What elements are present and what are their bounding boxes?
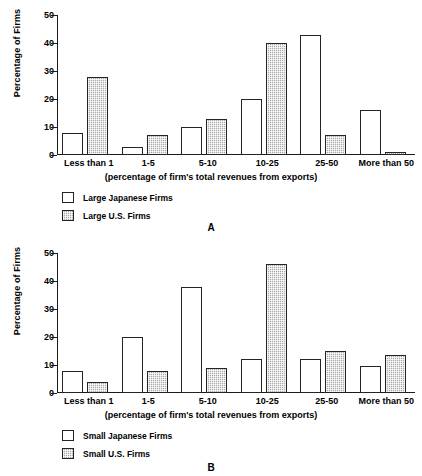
x-category-label-5: 25-50 [315, 158, 338, 168]
legend-label-japanese-b: Small Japanese Firms [83, 431, 172, 441]
x-category-label-4: 10-25 [256, 158, 279, 168]
legend-label-japanese-a: Large Japanese Firms [83, 193, 173, 203]
x-category-label-5: 25-50 [315, 396, 338, 406]
bar-japanese-4 [241, 359, 262, 393]
bar-group-4 [237, 15, 297, 155]
legend-item-us-a: Large U.S. Firms [62, 208, 173, 223]
legend-label-us-b: Small U.S. Firms [83, 449, 150, 459]
bar-japanese-4 [241, 99, 262, 155]
y-tick-mark-40 [51, 43, 57, 44]
legend-b: Small Japanese Firms Small U.S. Firms [62, 428, 172, 464]
y-tick-mark-30 [51, 309, 57, 310]
bar-japanese-1 [62, 133, 83, 155]
bar-group-3 [177, 253, 237, 393]
y-tick-mark-30 [51, 71, 57, 72]
legend-item-japanese-b: Small Japanese Firms [62, 428, 172, 443]
x-axis-label-a: (percentage of firm's total revenues fro… [0, 172, 422, 182]
legend-item-us-b: Small U.S. Firms [62, 446, 172, 461]
y-axis-tick-labels-a: 01020304050 [28, 12, 54, 155]
bar-group-6 [356, 253, 416, 393]
bar-group-1 [58, 253, 118, 393]
plot-area-b: Percentage of Firms 01020304050 [0, 238, 422, 398]
x-category-label-1: Less than 1 [64, 396, 114, 406]
y-tick-mark-50 [51, 15, 57, 16]
x-category-label-1: Less than 1 [64, 158, 114, 168]
bar-us-3 [206, 368, 227, 393]
bar-us-3 [206, 119, 227, 155]
bar-us-6 [385, 355, 406, 393]
plot-area-a: Percentage of Firms 01020304050 [0, 0, 422, 160]
x-category-label-4: 10-25 [256, 396, 279, 406]
y-tick-mark-40 [51, 281, 57, 282]
bar-japanese-2 [122, 337, 143, 393]
y-tick-mark-20 [51, 337, 57, 338]
legend-label-us-a: Large U.S. Firms [83, 211, 151, 221]
bar-us-4 [266, 43, 287, 155]
chart-panel-a: Percentage of Firms 01020304050 Less tha… [0, 0, 422, 238]
x-category-label-6: More than 50 [358, 396, 414, 406]
x-category-label-2: 1-5 [142, 158, 155, 168]
x-axis-label-b: (percentage of firm's total revenues fro… [0, 410, 422, 420]
bar-us-5 [325, 135, 346, 155]
bar-japanese-1 [62, 371, 83, 393]
bar-group-2 [118, 15, 178, 155]
legend-swatch-japanese-icon [62, 430, 74, 441]
panel-letter-a: A [0, 222, 422, 233]
panel-letter-b: B [0, 462, 422, 473]
bar-group-3 [177, 15, 237, 155]
bar-us-4 [266, 264, 287, 393]
x-category-label-3: 5-10 [199, 158, 217, 168]
y-axis-label-a: Percentage of Firms [12, 0, 22, 118]
bar-japanese-3 [181, 287, 202, 393]
bar-group-6 [356, 15, 416, 155]
bar-japanese-6 [360, 110, 381, 155]
bars-container-b [58, 253, 415, 393]
bar-us-2 [147, 371, 168, 393]
legend-swatch-us-icon [62, 448, 74, 459]
x-category-label-6: More than 50 [358, 158, 414, 168]
x-category-label-2: 1-5 [142, 396, 155, 406]
x-axis-category-labels-a: Less than 11-55-1010-2525-50More than 50 [58, 158, 415, 172]
bar-group-4 [237, 253, 297, 393]
legend-item-japanese-a: Large Japanese Firms [62, 190, 173, 205]
bar-japanese-3 [181, 127, 202, 155]
y-tick-mark-0 [51, 393, 57, 394]
y-tick-mark-10 [51, 127, 57, 128]
y-axis-tick-labels-b: 01020304050 [28, 250, 54, 393]
bar-group-5 [296, 253, 356, 393]
legend-swatch-us-icon [62, 210, 74, 221]
bar-us-6 [385, 152, 406, 155]
bar-us-5 [325, 351, 346, 393]
x-axis-category-labels-b: Less than 11-55-1010-2525-50More than 50 [58, 396, 415, 410]
legend-a: Large Japanese Firms Large U.S. Firms [62, 190, 173, 226]
legend-swatch-japanese-icon [62, 192, 74, 203]
bar-us-2 [147, 135, 168, 155]
y-axis-label-b: Percentage of Firms [12, 226, 22, 356]
bar-group-2 [118, 253, 178, 393]
y-tick-mark-50 [51, 253, 57, 254]
y-tick-mark-10 [51, 365, 57, 366]
bar-japanese-5 [300, 35, 321, 155]
bar-group-5 [296, 15, 356, 155]
y-tick-mark-20 [51, 99, 57, 100]
x-category-label-3: 5-10 [199, 396, 217, 406]
y-tick-mark-0 [51, 155, 57, 156]
bar-us-1 [87, 382, 108, 393]
bars-container-a [58, 15, 415, 155]
bar-group-1 [58, 15, 118, 155]
bar-us-1 [87, 77, 108, 155]
bar-japanese-6 [360, 366, 381, 393]
bar-japanese-5 [300, 359, 321, 393]
bar-japanese-2 [122, 147, 143, 155]
chart-panel-b: Percentage of Firms 01020304050 Less tha… [0, 238, 422, 476]
